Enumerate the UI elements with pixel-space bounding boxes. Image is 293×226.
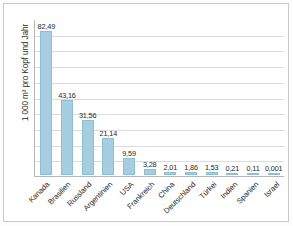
bar-value-label: 3,28 — [143, 160, 157, 169]
bar-value-label: 43,16 — [58, 91, 76, 100]
bar-value-label: 0,21 — [226, 164, 240, 173]
bar-slot: 0,21 — [222, 20, 243, 175]
bar-value-label: 9,59 — [122, 149, 136, 158]
bar-chart: 1 000 m³ pro Kopf und Jahr 82,4943,1631,… — [12, 12, 289, 222]
plot-area: 82,4943,1631,5621,149,593,282,011,861,53… — [34, 20, 284, 177]
bar[interactable]: 0,001 — [268, 173, 280, 175]
bar[interactable]: 2,01 — [164, 172, 176, 176]
bar-series: 82,4943,1631,5621,149,593,282,011,861,53… — [36, 20, 284, 175]
bar-slot: 1,86 — [181, 20, 202, 175]
bar[interactable]: 3,28 — [144, 169, 156, 175]
y-axis-title: 1 000 m³ pro Kopf und Jahr — [21, 13, 30, 133]
bar[interactable]: 9,59 — [123, 158, 135, 175]
bar-value-label: 82,49 — [38, 22, 56, 31]
bar[interactable]: 1,53 — [206, 172, 218, 175]
x-label-slot: Deutschland — [181, 178, 202, 224]
bar-slot: 9,59 — [119, 20, 140, 175]
x-label-slot: Türkei — [202, 178, 223, 224]
bar[interactable]: 82,49 — [40, 31, 52, 175]
bar-value-label: 0,11 — [247, 164, 260, 173]
x-label-slot: Spanien — [243, 178, 264, 224]
bar-slot: 1,53 — [201, 20, 222, 175]
x-axis-label: USA — [118, 180, 135, 197]
bar-slot: 43,16 — [57, 20, 78, 175]
page-frame: 1 000 m³ pro Kopf und Jahr 82,4943,1631,… — [3, 3, 289, 222]
bar-value-label: 21,14 — [100, 129, 118, 138]
bar[interactable]: 0,21 — [226, 173, 238, 175]
bar[interactable]: 1,86 — [185, 172, 197, 175]
x-label-slot: Frankreich — [139, 178, 160, 224]
bar-value-label: 31,56 — [79, 111, 97, 120]
bar-value-label: 1,53 — [205, 163, 219, 172]
bar-slot: 0,11 — [243, 20, 264, 175]
chart-page: 1 000 m³ pro Kopf und Jahr 82,4943,1631,… — [0, 0, 293, 226]
x-axis-label: Israel — [262, 180, 281, 199]
bar-slot: 21,14 — [98, 20, 119, 175]
x-label-slot: Argentinien — [97, 178, 118, 224]
x-axis-label: Türkei — [198, 180, 219, 201]
bar-slot: 82,49 — [36, 20, 57, 175]
bar-slot: 0,001 — [263, 20, 284, 175]
bar[interactable]: 31,56 — [82, 120, 94, 175]
bar[interactable]: 0,11 — [247, 173, 259, 175]
bar-value-label: 1,86 — [184, 163, 198, 172]
bar-slot: 2,01 — [160, 20, 181, 175]
bar[interactable]: 43,16 — [61, 100, 73, 175]
bar-value-label: 2,01 — [164, 163, 178, 172]
bar-slot: 31,56 — [77, 20, 98, 175]
bar-value-label: 0,001 — [265, 164, 283, 173]
bar-slot: 3,28 — [139, 20, 160, 175]
x-axis-labels: KanadaBrasilienRusslandArgentinienUSAFra… — [35, 178, 285, 224]
x-label-slot: Israel — [264, 178, 285, 224]
bar[interactable]: 21,14 — [102, 138, 114, 175]
